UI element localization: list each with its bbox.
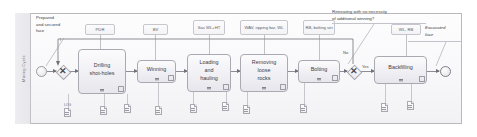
flow-winning-to-loading bbox=[176, 71, 187, 72]
resource-connector-6 bbox=[406, 35, 407, 56]
task-marker-icon bbox=[399, 78, 403, 82]
start-event[interactable] bbox=[36, 66, 47, 77]
task-removing-loose-rocks[interactable]: Removing loose rocks bbox=[240, 54, 288, 92]
resource-annotation-backfilling: WL, RB bbox=[391, 24, 421, 35]
document-line bbox=[65, 114, 69, 115]
document-fold-icon bbox=[128, 104, 131, 107]
task-backfilling[interactable]: Backfilling bbox=[374, 56, 427, 84]
join-gateway[interactable]: ✕ bbox=[56, 65, 69, 78]
task-corner-icon bbox=[280, 84, 285, 89]
task-corner-icon bbox=[168, 75, 173, 80]
data-connector-9 bbox=[385, 84, 386, 103]
task-bolting[interactable]: Bolting bbox=[298, 60, 340, 83]
data-object-label-log: LOG bbox=[59, 103, 76, 107]
document-line bbox=[244, 111, 248, 112]
task-marker-icon bbox=[155, 77, 159, 81]
gateway-xor-icon: ✕ bbox=[347, 65, 360, 78]
gateway-xor-icon: ✕ bbox=[56, 65, 69, 78]
decision-gateway[interactable]: ✕ bbox=[347, 65, 360, 78]
document-line bbox=[223, 108, 227, 109]
task-corner-icon bbox=[332, 75, 337, 80]
task-marker-icon bbox=[317, 77, 321, 81]
task-loading-and-hauling[interactable]: Loading and hauling bbox=[187, 54, 231, 92]
data-connector-4 bbox=[158, 83, 159, 106]
data-object-9[interactable] bbox=[381, 103, 388, 112]
document-line bbox=[125, 110, 129, 111]
flow-gateway-to-backfilling bbox=[361, 71, 374, 72]
flow-removing-to-bolting bbox=[288, 71, 298, 72]
data-object-6[interactable] bbox=[222, 102, 229, 111]
document-fold-icon bbox=[68, 108, 71, 111]
task-corner-icon bbox=[118, 86, 123, 91]
document-fold-icon bbox=[226, 102, 229, 105]
data-object-2[interactable] bbox=[100, 106, 107, 115]
task-corner-icon bbox=[223, 84, 228, 89]
data-connector-8 bbox=[304, 83, 305, 104]
task-label: Loading and hauling bbox=[199, 59, 218, 82]
document-fold-icon bbox=[194, 104, 197, 107]
lane-header: Mining Cycle bbox=[15, 13, 31, 124]
task-label: Removing loose rocks bbox=[252, 59, 276, 82]
lane-label: Mining Cycle bbox=[15, 13, 31, 124]
condition-label-no: No bbox=[343, 50, 348, 55]
document-line bbox=[191, 110, 195, 111]
end-annotation: Excavated face bbox=[425, 25, 465, 38]
data-connector-6 bbox=[226, 92, 227, 102]
document-line bbox=[101, 112, 105, 113]
data-connector-10 bbox=[411, 84, 412, 101]
end-annotation-leader bbox=[434, 42, 452, 68]
data-object-log[interactable] bbox=[64, 108, 71, 117]
document-fold-icon bbox=[304, 104, 307, 107]
document-line bbox=[156, 112, 160, 113]
document-line bbox=[382, 109, 386, 110]
task-drilling-shot-holes[interactable]: Drilling shot-holes bbox=[78, 49, 126, 94]
diagram-canvas: Mining Cycle PDR BV Sas WL+HT WAV, rippi… bbox=[0, 0, 477, 137]
document-line bbox=[301, 110, 305, 111]
task-label: Backfilling bbox=[388, 64, 412, 72]
data-connector-5 bbox=[193, 92, 194, 104]
flow-backfilling-to-end bbox=[427, 71, 439, 72]
task-winning[interactable]: Winning bbox=[137, 60, 176, 83]
data-object-4[interactable] bbox=[155, 106, 162, 115]
task-label: Bolting bbox=[311, 66, 327, 74]
task-label: Winning bbox=[147, 66, 166, 74]
task-marker-icon bbox=[262, 86, 266, 90]
document-fold-icon bbox=[411, 101, 414, 104]
task-corner-icon bbox=[419, 76, 424, 81]
task-label: Drilling shot-holes bbox=[90, 62, 115, 78]
task-marker-icon bbox=[100, 88, 104, 92]
document-line bbox=[408, 107, 412, 108]
data-object-3[interactable] bbox=[124, 104, 131, 113]
data-object-7[interactable] bbox=[243, 105, 250, 114]
data-object-8[interactable] bbox=[300, 104, 307, 113]
document-fold-icon bbox=[385, 103, 388, 106]
data-connector-2 bbox=[104, 94, 105, 106]
end-event[interactable] bbox=[440, 66, 451, 77]
data-object-5[interactable] bbox=[190, 104, 197, 113]
data-connector-3 bbox=[127, 94, 128, 104]
document-fold-icon bbox=[159, 106, 162, 109]
flow-drilling-to-winning bbox=[126, 71, 137, 72]
condition-label-yes: Yes bbox=[362, 64, 369, 69]
task-marker-icon bbox=[207, 86, 211, 90]
flow-loading-to-removing bbox=[231, 71, 240, 72]
document-fold-icon bbox=[104, 106, 107, 109]
data-object-10[interactable] bbox=[407, 101, 414, 110]
document-fold-icon bbox=[247, 105, 250, 108]
data-connector-7 bbox=[247, 92, 248, 105]
